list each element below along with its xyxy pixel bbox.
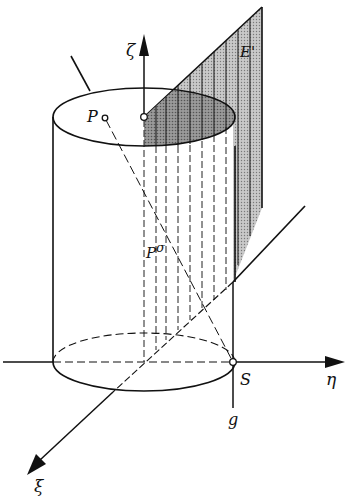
- bottom-ellipse-back: [53, 333, 235, 362]
- label-g: g: [228, 410, 238, 429]
- label-p-sigma: Pσ: [145, 240, 166, 262]
- label-p: P: [86, 107, 98, 126]
- eta-arrowhead-icon: [325, 356, 345, 368]
- label-eta: η: [326, 369, 337, 389]
- label-s: S: [240, 370, 251, 389]
- origin-point: [141, 114, 148, 121]
- zeta-axis: [139, 34, 149, 114]
- bottom-ellipse-front: [53, 362, 235, 391]
- label-p-sigma-sup: σ: [156, 240, 166, 255]
- back-line: [71, 56, 90, 91]
- label-zeta: ζ: [126, 40, 137, 60]
- point-s: [230, 359, 237, 366]
- label-plane-e-prime: E': [239, 43, 255, 61]
- label-xi: ξ: [34, 476, 45, 496]
- cylinder-projection-diagram: ζ E' P Pσ S η g ξ: [0, 0, 350, 501]
- zeta-arrowhead-icon: [139, 34, 149, 56]
- point-p: [102, 115, 108, 121]
